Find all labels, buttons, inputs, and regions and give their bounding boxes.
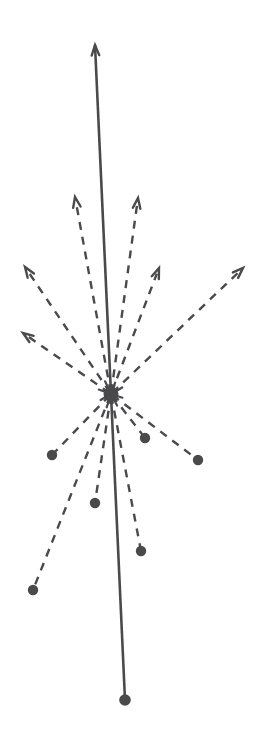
endpoint-dot-v12 [28, 585, 38, 595]
endpoint-dot-v10 [90, 498, 100, 508]
endpoint-dot-v9 [193, 455, 203, 465]
endpoint-dot-v8 [140, 433, 150, 443]
endpoint-dot-v7 [47, 450, 57, 460]
endpoint-dot-v11 [136, 546, 146, 556]
canvas-background [0, 0, 274, 745]
endpoint-dot-axis-bottom [119, 694, 131, 706]
figure-root [0, 0, 274, 745]
vector-diagram-canvas [0, 0, 274, 745]
